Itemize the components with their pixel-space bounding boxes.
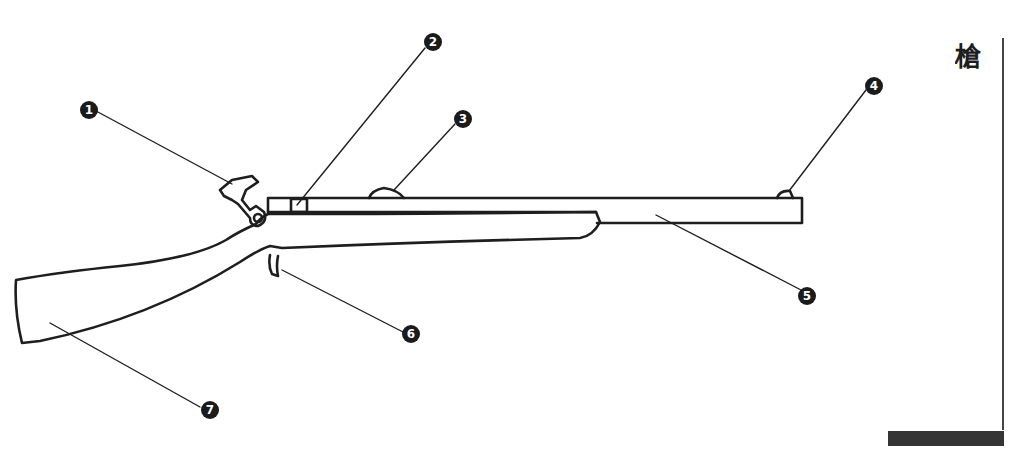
stock-shape [16,212,600,343]
barrel-band-shape [369,188,404,198]
callout-6: 6 [402,325,420,343]
page-tab-bar [888,431,1004,446]
hammer-shape [220,176,265,226]
callout-5: 5 [798,287,816,305]
callout-4: 4 [865,77,883,95]
musket-illustration [0,0,1012,458]
barrel-shape [268,198,802,223]
trigger-shape [269,255,278,276]
right-divider [1002,38,1004,430]
callout-3: 3 [454,110,472,128]
leader-lines [50,48,866,407]
callout-2: 2 [424,33,442,51]
page-title: 槍 [955,44,981,70]
callout-1: 1 [80,101,98,119]
callout-7: 7 [201,401,219,419]
hammer-pivot [254,214,262,222]
rear-sight-shape [291,199,307,212]
